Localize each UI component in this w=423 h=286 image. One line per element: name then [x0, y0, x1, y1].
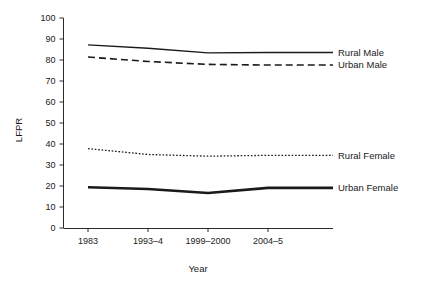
- y-axis-ticks: 0102030405060708090100: [40, 13, 63, 233]
- y-tick-label: 40: [45, 139, 55, 149]
- x-axis-ticks: 19831993–41999–20002004–5: [78, 228, 283, 246]
- y-axis-title: LFPR: [13, 118, 24, 142]
- y-tick-label: 60: [45, 97, 55, 107]
- x-tick-label: 1993–4: [133, 236, 163, 246]
- y-tick-label: 90: [45, 34, 55, 44]
- x-tick-label: 2004–5: [253, 236, 283, 246]
- y-tick-label: 100: [40, 13, 55, 23]
- series-label-rural-male: Rural Male: [338, 47, 384, 58]
- series-lines-group: [88, 45, 333, 193]
- y-tick-label: 50: [45, 118, 55, 128]
- y-tick-label: 70: [45, 76, 55, 86]
- series-label-rural-female: Rural Female: [338, 150, 395, 161]
- x-tick-label: 1999–2000: [185, 236, 230, 246]
- x-axis: 19831993–41999–20002004–5: [64, 228, 334, 246]
- x-axis-title: Year: [188, 263, 207, 274]
- series-line-urban-male: [88, 57, 333, 65]
- y-tick-label: 0: [50, 223, 55, 233]
- series-label-urban-male: Urban Male: [338, 59, 387, 70]
- series-line-rural-male: [88, 45, 333, 53]
- y-tick-label: 10: [45, 202, 55, 212]
- y-tick-label: 80: [45, 55, 55, 65]
- series-label-urban-female: Urban Female: [338, 182, 398, 193]
- series-line-rural-female: [88, 149, 333, 157]
- y-tick-label: 30: [45, 160, 55, 170]
- x-tick-label: 1983: [78, 236, 98, 246]
- y-tick-label: 20: [45, 181, 55, 191]
- line-chart: 0102030405060708090100 19831993–41999–20…: [0, 0, 423, 286]
- y-axis: 0102030405060708090100: [40, 13, 63, 233]
- series-line-urban-female: [88, 187, 333, 193]
- chart-figure: 0102030405060708090100 19831993–41999–20…: [0, 0, 423, 286]
- series-labels-group: Rural MaleUrban MaleRural FemaleUrban Fe…: [338, 47, 398, 193]
